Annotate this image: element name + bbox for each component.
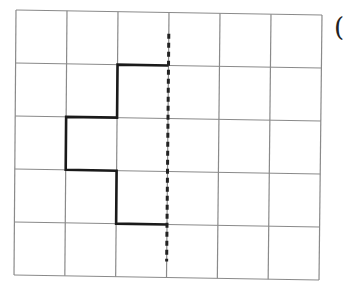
grid-vertical-line <box>116 12 118 277</box>
grid-vertical-line <box>14 10 16 275</box>
grid-vertical-line <box>268 14 271 279</box>
grid-vertical-line <box>217 13 220 278</box>
grid-vertical-line <box>319 15 322 280</box>
part-label: ( <box>334 14 344 40</box>
